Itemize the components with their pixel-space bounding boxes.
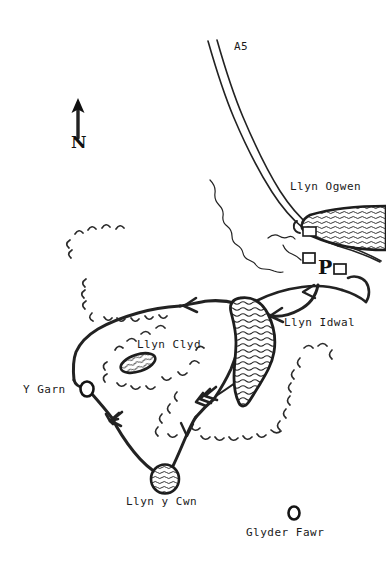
building-symbol-east: [334, 264, 346, 274]
lake-label-llyn-y-cwn: Llyn y Cwn: [126, 495, 197, 508]
lake-llyn-y-cwn: [151, 465, 179, 494]
lake-label-llyn-idwal: Llyn Idwal: [284, 316, 355, 329]
summit-label-y-garn: Y Garn: [23, 383, 66, 396]
parking-label: P: [318, 256, 332, 278]
sketch-map-drawing: N A5 Llyn Ogwen P: [0, 0, 386, 568]
lake-label-llyn-ogwen: Llyn Ogwen: [290, 180, 361, 193]
building-symbol-west: [303, 253, 315, 263]
map-background: [0, 0, 386, 568]
summit-marker-y-garn: [81, 382, 94, 397]
lake-label-llyn-clyd: Llyn Clyd: [137, 338, 201, 351]
summit-label-glyder-fawr: Glyder Fawr: [246, 526, 324, 539]
north-label: N: [71, 132, 87, 152]
summit-marker-glyder-fawr: [289, 507, 300, 520]
map-canvas: N A5 Llyn Ogwen P: [0, 0, 386, 568]
road-label-a5: A5: [234, 40, 248, 53]
